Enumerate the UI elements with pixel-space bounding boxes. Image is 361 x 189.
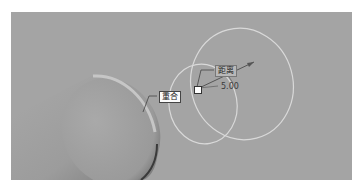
center-point-handle[interactable] [194,86,202,94]
distance-value[interactable]: 5.00 [221,82,239,91]
distance-constraint-label[interactable]: 距离 [215,65,237,77]
cylinder-part [11,62,178,180]
coincident-constraint-label[interactable]: 重合 [159,91,181,103]
scene-graphics [11,12,352,180]
3d-viewport[interactable]: 重合 距离 5.00 [11,12,352,180]
